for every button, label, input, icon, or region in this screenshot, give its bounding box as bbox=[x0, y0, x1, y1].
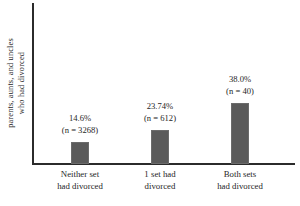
category-label-line-2: had divorced bbox=[40, 180, 120, 192]
bar-group: 23.74% (n = 612) bbox=[120, 3, 200, 164]
plot-area: 14.6% (n = 3268) 23.74% (n = 612) 38.0% … bbox=[34, 3, 295, 164]
bar-count-label: (n = 3268) bbox=[62, 125, 98, 137]
bar-chart: parents, aunts, and uncles who had divor… bbox=[0, 0, 300, 206]
bar-value-label: 14.6% (n = 3268) bbox=[62, 113, 98, 136]
bar-rect bbox=[151, 130, 169, 164]
bar-percent-label: 38.0% bbox=[226, 74, 254, 86]
bar-count-label: (n = 40) bbox=[226, 86, 254, 98]
bar-value-label: 23.74% (n = 612) bbox=[144, 101, 176, 124]
category-label-line-2: had divorced bbox=[200, 180, 280, 192]
category-label-line-1: Both sets bbox=[200, 168, 280, 180]
bar-percent-label: 14.6% bbox=[62, 113, 98, 125]
bar-group: 38.0% (n = 40) bbox=[200, 3, 280, 164]
y-axis-label-line-1: parents, aunts, and uncles bbox=[5, 38, 16, 128]
category-label: 1 set had divorced bbox=[120, 168, 200, 192]
category-label-line-2: divorced bbox=[120, 180, 200, 192]
category-label: Both sets had divorced bbox=[200, 168, 280, 192]
y-axis-label-line-2: who had divorced bbox=[16, 38, 27, 128]
bar-count-label: (n = 612) bbox=[144, 113, 176, 125]
x-axis-categories: Neither set had divorced 1 set had divor… bbox=[34, 168, 295, 204]
bar-percent-label: 23.74% bbox=[144, 101, 176, 113]
category-label-line-1: 1 set had bbox=[120, 168, 200, 180]
bar-rect bbox=[71, 142, 89, 164]
category-label: Neither set had divorced bbox=[40, 168, 120, 192]
bar-group: 14.6% (n = 3268) bbox=[40, 3, 120, 164]
bar-value-label: 38.0% (n = 40) bbox=[226, 74, 254, 97]
bar-rect bbox=[231, 103, 249, 164]
y-axis-label: parents, aunts, and uncles who had divor… bbox=[0, 0, 32, 166]
y-axis-label-text: parents, aunts, and uncles who had divor… bbox=[5, 38, 27, 128]
category-label-line-1: Neither set bbox=[40, 168, 120, 180]
